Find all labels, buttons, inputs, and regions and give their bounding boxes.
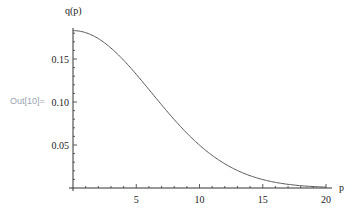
x-axis-label: p <box>339 182 344 193</box>
y-tick-label: 0.05 <box>52 140 70 151</box>
x-tick-label: 15 <box>258 194 268 205</box>
q-curve <box>73 31 326 188</box>
x-tick-label: 10 <box>195 194 205 205</box>
y-axis-label: q(p) <box>65 5 82 17</box>
y-tick-label: 0.15 <box>52 54 70 65</box>
x-tick-label: 5 <box>134 194 139 205</box>
plot: 51015200.050.100.15pq(p) <box>0 0 360 213</box>
x-tick-label: 20 <box>321 194 331 205</box>
y-tick-label: 0.10 <box>52 97 70 108</box>
